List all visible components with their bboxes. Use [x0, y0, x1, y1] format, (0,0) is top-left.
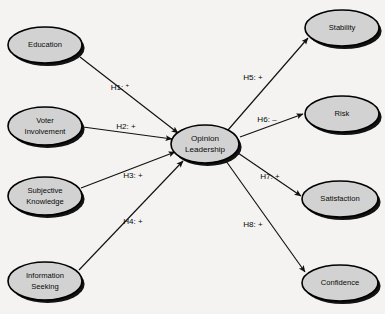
node-label-voter-involvement-line2: Involvement [25, 127, 67, 136]
path-diagram: EducationVoterInvolvementSubjectiveKnowl… [0, 0, 385, 314]
diagram-canvas: EducationVoterInvolvementSubjectiveKnowl… [0, 0, 385, 314]
node-subjective-knowledge[interactable]: SubjectiveKnowledge [8, 177, 85, 218]
node-label-opinion-leadership-line2: Leadership [185, 145, 226, 154]
node-risk[interactable]: Risk [305, 96, 382, 135]
node-confidence[interactable]: Confidence [302, 265, 381, 304]
path-label-h3: H3: + [123, 171, 143, 180]
node-label-opinion-leadership: Opinion [191, 134, 219, 143]
nodes-layer: EducationVoterInvolvementSubjectiveKnowl… [8, 10, 382, 304]
path-label-h6: H6: – [257, 115, 277, 124]
node-label-education: Education [28, 40, 62, 49]
node-label-voter-involvement: Voter [36, 116, 54, 125]
node-label-subjective-knowledge: Subjective [27, 186, 62, 195]
node-education[interactable]: Education [8, 27, 85, 66]
node-opinion-leadership[interactable]: OpinionLeadership [171, 125, 242, 166]
node-satisfaction[interactable]: Satisfaction [302, 181, 381, 220]
node-information-seeking[interactable]: InformationSeeking [8, 262, 85, 303]
path-label-h7: H7: + [260, 172, 280, 181]
node-label-stability: Stability [329, 23, 356, 32]
node-stability[interactable]: Stability [305, 10, 382, 49]
path-label-h5: H5: + [243, 73, 263, 82]
path-label-h2: H2: + [116, 122, 136, 131]
node-label-information-seeking: Information [26, 271, 64, 280]
path-arrow-h3 [81, 152, 175, 188]
node-label-confidence: Confidence [321, 278, 359, 287]
path-label-h1: H1: + [111, 81, 130, 93]
node-label-subjective-knowledge-line2: Knowledge [26, 197, 64, 206]
path-label-h4: H4: + [123, 217, 143, 226]
node-label-risk: Risk [335, 109, 350, 118]
node-label-information-seeking-line2: Seeking [31, 282, 58, 291]
node-voter-involvement[interactable]: VoterInvolvement [8, 107, 85, 148]
path-label-h8: H8: + [243, 220, 263, 229]
node-label-satisfaction: Satisfaction [320, 194, 359, 203]
